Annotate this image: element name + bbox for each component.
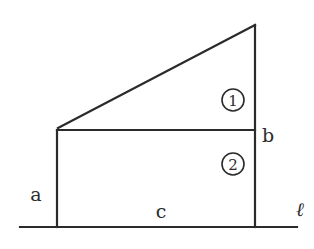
region-2-marker: 2 [222,153,244,175]
label-line-l: ℓ [296,198,304,220]
region-2-label: 2 [228,156,238,174]
slanted-top-side [58,25,255,128]
label-a: a [30,183,41,205]
region-1-marker: 1 [222,89,244,111]
region-1-label: 1 [228,92,238,110]
label-c: c [156,200,167,222]
geometry-figure: 1 2 a b c ℓ [0,0,314,249]
diagram-canvas: 1 2 a b c ℓ [0,0,314,249]
label-b: b [262,124,274,146]
